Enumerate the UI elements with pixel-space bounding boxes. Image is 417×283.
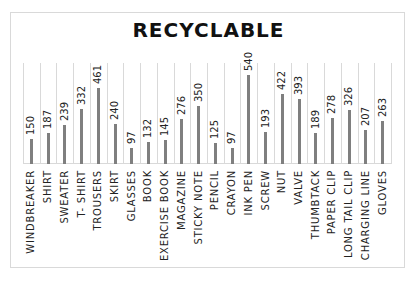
data-label: 150 [26, 116, 36, 135]
bar [130, 148, 133, 164]
bar [364, 130, 367, 164]
bar [231, 148, 234, 164]
bar [80, 109, 83, 164]
gridline [224, 63, 225, 164]
category-label: THUMBTACK [311, 170, 321, 239]
gridline [291, 63, 292, 164]
data-label: 332 [77, 86, 87, 105]
gridline [123, 63, 124, 164]
category-label: GLOVES [378, 170, 388, 215]
category-label: SKIRT [110, 170, 120, 202]
gridline [40, 63, 41, 164]
data-label: 276 [177, 95, 187, 114]
gridline [73, 63, 74, 164]
bar [281, 94, 284, 164]
data-label: 540 [244, 52, 254, 71]
category-label: T- SHIRT [77, 170, 87, 218]
data-label: 132 [143, 119, 153, 138]
category-label: WINDBREAKER [26, 170, 36, 254]
data-label: 145 [160, 117, 170, 136]
data-label: 125 [210, 120, 220, 139]
bar [264, 132, 267, 164]
gridline [23, 63, 24, 164]
gridline [190, 63, 191, 164]
data-label: 422 [277, 71, 287, 90]
bar [114, 124, 117, 164]
category-label: STICKY NOTE [194, 170, 204, 244]
gridline [358, 63, 359, 164]
category-label: TROUSERS [93, 170, 103, 231]
bar [214, 143, 217, 164]
bar [147, 142, 150, 164]
bar [314, 133, 317, 164]
data-label: 239 [60, 102, 70, 121]
gridline [240, 63, 241, 164]
chart-title: RECYCLABLE [0, 18, 417, 42]
data-label: 207 [361, 107, 371, 126]
bar [298, 99, 301, 164]
category-label: SWEATER [60, 170, 70, 224]
category-label: SHIRT [43, 170, 53, 203]
bar [247, 75, 250, 164]
data-label: 278 [327, 95, 337, 114]
category-label: CRAYON [227, 170, 237, 215]
bar [164, 140, 167, 164]
category-label: EXERCISE BOOK [160, 170, 170, 261]
gridline [107, 63, 108, 164]
data-label: 461 [93, 65, 103, 84]
category-label: NUT [277, 170, 287, 193]
gridline [207, 63, 208, 164]
bar [47, 133, 50, 164]
gridline [374, 63, 375, 164]
plot-area: 1501872393324612409713214527635012597540… [23, 63, 391, 164]
category-label: BOOK [143, 170, 153, 202]
data-label: 240 [110, 101, 120, 120]
data-label: 97 [227, 131, 237, 144]
data-label: 97 [127, 131, 137, 144]
category-label: MAGAZINE [177, 170, 187, 230]
bar [348, 110, 351, 164]
gridline [341, 63, 342, 164]
gridline [257, 63, 258, 164]
category-label: INK PEN [244, 170, 254, 216]
data-label: 350 [194, 83, 204, 102]
data-label: 326 [344, 87, 354, 106]
gridline [56, 63, 57, 164]
bar [197, 106, 200, 164]
gridline [274, 63, 275, 164]
gridline [307, 63, 308, 164]
bar [331, 118, 334, 164]
category-label: LONG TAIL CLIP [344, 170, 354, 258]
gridline [90, 63, 91, 164]
bar [180, 119, 183, 164]
category-label: SCREW [261, 170, 271, 210]
gridline [324, 63, 325, 164]
bar [381, 121, 384, 164]
category-label: PAPER CLIP [327, 170, 337, 234]
bar [97, 88, 100, 164]
gridline [157, 63, 158, 164]
category-label: VALVE [294, 170, 304, 205]
category-label: GLASSES [127, 170, 137, 221]
category-label: CHARGING LINE [361, 170, 371, 260]
data-label: 187 [43, 110, 53, 129]
data-label: 263 [378, 98, 388, 117]
bar [30, 139, 33, 164]
data-label: 193 [261, 109, 271, 128]
category-label: PENCIL [210, 170, 220, 210]
gridline [140, 63, 141, 164]
data-label: 189 [311, 110, 321, 129]
data-label: 393 [294, 76, 304, 95]
bar [63, 125, 66, 164]
gridline [174, 63, 175, 164]
gridline [391, 63, 392, 164]
